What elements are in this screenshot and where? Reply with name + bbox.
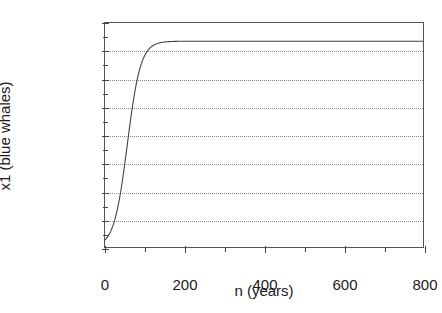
plot-area: 0200004000060000800001000001200001400001…	[104, 22, 424, 248]
x-tick-label-800: 800	[412, 277, 437, 292]
x-tick-label-0: 0	[101, 277, 109, 292]
x-tick-800	[425, 246, 426, 253]
x-minor-tick-700	[385, 247, 386, 252]
chart-figure: x1 (blue whales) n (years) 0200004000060…	[0, 0, 442, 313]
logistic-growth-curve	[105, 23, 423, 247]
x-tick-label-600: 600	[332, 277, 357, 292]
x-tick-600	[345, 246, 346, 253]
x-tick-label-200: 200	[172, 277, 197, 292]
x-tick-200	[185, 246, 186, 253]
x-minor-tick-300	[225, 247, 226, 252]
x-tick-0	[105, 246, 106, 253]
y-axis-title: x1 (blue whales)	[0, 81, 13, 190]
x-tick-label-400: 400	[252, 277, 277, 292]
x-minor-tick-100	[145, 247, 146, 252]
x-tick-400	[265, 246, 266, 253]
x-minor-tick-500	[305, 247, 306, 252]
